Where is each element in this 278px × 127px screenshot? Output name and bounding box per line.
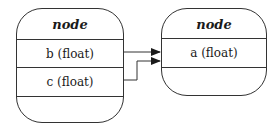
edge-c-to-a: [124, 61, 160, 80]
edges-layer: [0, 0, 278, 127]
